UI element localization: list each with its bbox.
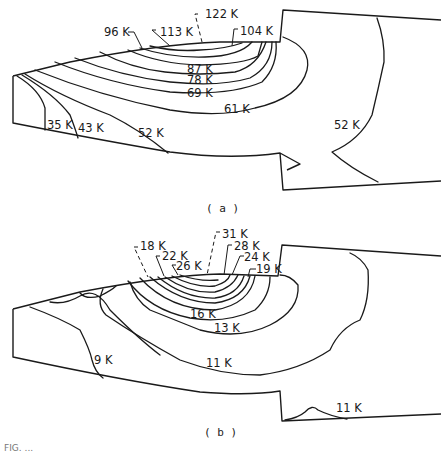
panel-b-contours <box>30 253 368 420</box>
label-11k-center: 11 K <box>206 356 232 370</box>
panel-b-sublabel: ( b ) <box>204 426 237 439</box>
label-43k: 43 K <box>78 121 104 135</box>
panel-a-labels: 122 K 113 K 104 K 96 K 87 K 78 K 69 K 61… <box>47 7 360 140</box>
figure-caption: FIG. ... <box>4 443 33 452</box>
label-113k: 113 K <box>160 25 194 39</box>
label-96k: 96 K <box>104 25 130 39</box>
label-35k: 35 K <box>47 118 73 132</box>
label-9k: 9 K <box>94 353 113 367</box>
label-16k: 16 K <box>190 307 216 321</box>
label-78k: 78 K <box>187 73 213 87</box>
label-52k-left: 52 K <box>138 126 164 140</box>
panel-a-sublabel: ( a ) <box>206 202 239 215</box>
label-104k: 104 K <box>240 24 274 38</box>
label-19k: 19 K <box>256 262 282 276</box>
isotherm-figure: 122 K 113 K 104 K 96 K 87 K 78 K 69 K 61… <box>0 0 441 452</box>
label-26k: 26 K <box>176 259 202 273</box>
label-52k-right: 52 K <box>334 118 360 132</box>
label-13k: 13 K <box>214 321 240 335</box>
panel-a: 122 K 113 K 104 K 96 K 87 K 78 K 69 K 61… <box>13 7 441 215</box>
label-69k: 69 K <box>187 86 213 100</box>
panel-b-labels: 31 K 28 K 18 K 24 K 22 K 26 K 19 K 16 K … <box>94 227 362 415</box>
panel-b: 31 K 28 K 18 K 24 K 22 K 26 K 19 K 16 K … <box>13 227 441 439</box>
label-11k-right: 11 K <box>336 401 362 415</box>
label-122k: 122 K <box>205 7 239 21</box>
label-61k: 61 K <box>224 102 250 116</box>
panel-a-outline <box>13 10 441 190</box>
